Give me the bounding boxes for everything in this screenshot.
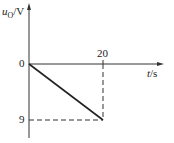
x-axis-label: t/s [147,68,157,79]
x-tick-label-20: 20 [97,48,108,59]
x-unit: /s [150,67,157,79]
y-unit: /V [13,5,24,17]
y-axis-label: uO/V [2,6,24,20]
series-uo-line [29,64,103,120]
y-axis-arrow-icon [27,3,31,10]
x-axis-arrow-icon [157,62,164,66]
y-tick-label-9: 9 [19,114,25,125]
origin-label: 0 [19,58,25,69]
